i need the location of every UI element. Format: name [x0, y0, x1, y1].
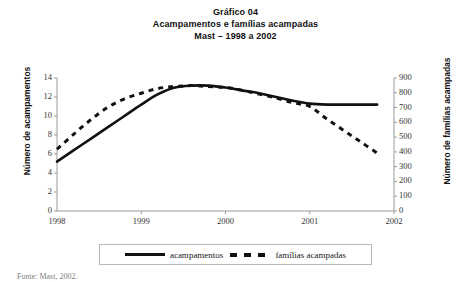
- legend-label-familias-acampadas: famílias acampadas: [275, 250, 346, 260]
- legend-label-acampamentos: acampamentos: [170, 250, 223, 260]
- axis-tick-marks: [54, 78, 397, 214]
- series-line-acampamentos: [57, 85, 377, 161]
- chart-canvas: [0, 0, 471, 282]
- legend-item-acampamentos[interactable]: acampamentos: [125, 250, 223, 260]
- dashed-line-icon: [230, 253, 270, 257]
- chart-plot-area: Número de acampamentos Número de família…: [0, 0, 471, 282]
- chart-legend: acampamentos famílias acampadas: [99, 244, 372, 265]
- source-note: Fonte: Mast, 2002.: [17, 272, 77, 281]
- series-line-familias-acampadas: [57, 86, 377, 153]
- solid-line-icon: [125, 253, 165, 256]
- legend-item-familias-acampadas[interactable]: famílias acampadas: [230, 250, 346, 260]
